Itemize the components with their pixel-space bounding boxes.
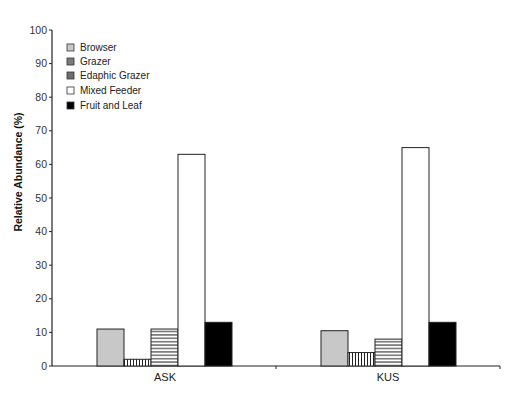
legend-label: Browser	[80, 42, 117, 53]
bar-fruit-and-leaf-ask	[205, 322, 232, 366]
legend-label: Grazer	[80, 56, 111, 67]
y-tick-label: 20	[35, 292, 47, 304]
y-tick-label: 90	[35, 57, 47, 69]
legend-swatch-grazer	[67, 58, 74, 65]
legend-swatch-browser	[67, 44, 74, 51]
legend: BrowserGrazerEdaphic GrazerMixed FeederF…	[67, 42, 150, 111]
y-tick-label: 50	[35, 192, 47, 204]
bar-fruit-and-leaf-kus	[429, 322, 456, 366]
y-tick-label: 80	[35, 91, 47, 103]
bars	[97, 148, 456, 366]
legend-label: Fruit and Leaf	[80, 100, 142, 111]
legend-swatch-mixed-feeder	[67, 87, 74, 94]
bar-edaphic-grazer-ask	[151, 329, 178, 366]
bar-edaphic-grazer-kus	[375, 339, 402, 366]
bar-grazer-ask	[124, 359, 151, 366]
x-tick-label: ASK	[154, 371, 177, 383]
legend-swatch-edaphic-grazer	[67, 72, 74, 79]
x-tick-label: KUS	[377, 371, 400, 383]
y-tick-label: 40	[35, 225, 47, 237]
bar-mixed-feeder-kus	[402, 148, 429, 366]
y-tick-label: 70	[35, 124, 47, 136]
bar-grazer-kus	[348, 353, 375, 366]
legend-swatch-fruit-and-leaf	[67, 102, 74, 109]
bar-mixed-feeder-ask	[178, 154, 205, 366]
legend-label: Edaphic Grazer	[80, 70, 150, 81]
y-tick-label: 100	[29, 24, 47, 36]
bar-chart: 0102030405060708090100ASKKUS BrowserGraz…	[0, 0, 518, 397]
y-axis-title: Relative Abundance (%)	[12, 112, 24, 231]
bar-browser-kus	[321, 331, 348, 366]
y-tick-label: 0	[41, 360, 47, 372]
y-tick-label: 30	[35, 259, 47, 271]
y-tick-label: 60	[35, 158, 47, 170]
bar-browser-ask	[97, 329, 124, 366]
legend-label: Mixed Feeder	[80, 85, 142, 96]
y-tick-label: 10	[35, 326, 47, 338]
